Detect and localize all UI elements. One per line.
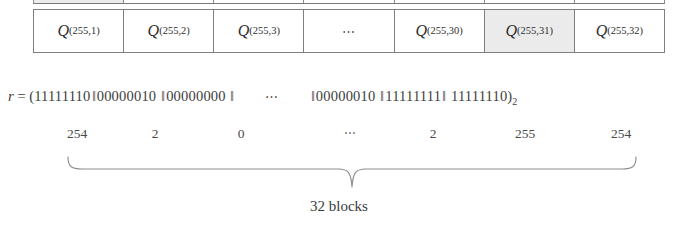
- q-block-cell-32: Q(255,32): [575, 10, 664, 52]
- q-block-cell-3: Q(255,3): [214, 10, 304, 52]
- q-block-cell-31-highlighted: Q(255,31): [485, 10, 575, 52]
- q-block-cell-30: Q(255,30): [395, 10, 485, 52]
- binary-block-31: 11111111: [385, 88, 441, 105]
- decimal-ellipsis: ⋯: [344, 126, 358, 141]
- curly-brace-icon: [62, 156, 642, 192]
- q-subscript: (255,32): [607, 26, 643, 37]
- binary-expression-line: r = (11111110‖00000010 ‖00000000 ‖⋯‖0000…: [8, 88, 670, 110]
- partial-cell: [485, 0, 575, 3]
- separator-icon: ‖: [380, 88, 385, 105]
- binary-block-3: 00000000: [166, 88, 226, 105]
- binary-block-1: 11111110: [34, 88, 90, 105]
- ellipsis-text: ⋯: [342, 25, 357, 38]
- partial-cell: [304, 0, 394, 3]
- q-subscript: (255,30): [427, 26, 463, 37]
- variable-r: r: [8, 88, 14, 104]
- separator-icon: ‖: [91, 88, 96, 105]
- equals-sign: =: [17, 88, 25, 104]
- figure-caption: 32 blocks: [0, 198, 678, 215]
- table-partial-row-above: [33, 0, 665, 4]
- separator-icon: ‖: [160, 88, 165, 105]
- expression-lead: r = (: [8, 88, 34, 105]
- decimal-values-row: 254 2 0 ⋯ 2 255 254: [33, 126, 665, 146]
- q-symbol: Q: [57, 23, 69, 39]
- q-subscript: (255,3): [249, 26, 280, 37]
- decimal-value-1: 254: [67, 126, 87, 142]
- partial-cell: [395, 0, 485, 3]
- decimal-value-32: 254: [611, 126, 631, 142]
- partial-cell: [214, 0, 304, 3]
- decimal-value-3: 0: [238, 126, 245, 142]
- separator-icon: ‖: [230, 88, 235, 105]
- base-subscript: 2: [512, 96, 517, 107]
- q-block-cell-2: Q(255,2): [124, 10, 214, 52]
- decimal-value-30: 2: [430, 126, 437, 142]
- q-subscript: (255,2): [159, 26, 190, 37]
- q-symbol: Q: [238, 23, 250, 39]
- q-symbol: Q: [506, 23, 518, 39]
- binary-block-32: 11111110: [451, 88, 507, 105]
- binary-block-2: 00000010: [97, 88, 157, 105]
- q-subscript: (255,31): [517, 26, 553, 37]
- decimal-value-31: 255: [515, 126, 535, 142]
- partial-cell: [34, 0, 124, 3]
- q-symbol: Q: [415, 23, 427, 39]
- q-symbol: Q: [148, 23, 160, 39]
- figure-root: Q(255,1) Q(255,2) Q(255,3) ⋯ Q(255,30) Q…: [0, 0, 678, 228]
- separator-icon: ‖: [442, 88, 447, 105]
- q-subscript: (255,1): [69, 26, 100, 37]
- binary-block-30: 00000010: [316, 88, 376, 105]
- binary-ellipsis: ⋯: [236, 89, 310, 105]
- q-block-cell-ellipsis: ⋯: [304, 10, 394, 52]
- decimal-value-2: 2: [152, 126, 159, 142]
- q-block-table: Q(255,1) Q(255,2) Q(255,3) ⋯ Q(255,30) Q…: [33, 9, 665, 53]
- partial-cell: [124, 0, 214, 3]
- q-symbol: Q: [596, 23, 608, 39]
- separator-icon: ‖: [310, 88, 315, 105]
- partial-cell: [575, 0, 664, 3]
- q-block-cell-1: Q(255,1): [34, 10, 124, 52]
